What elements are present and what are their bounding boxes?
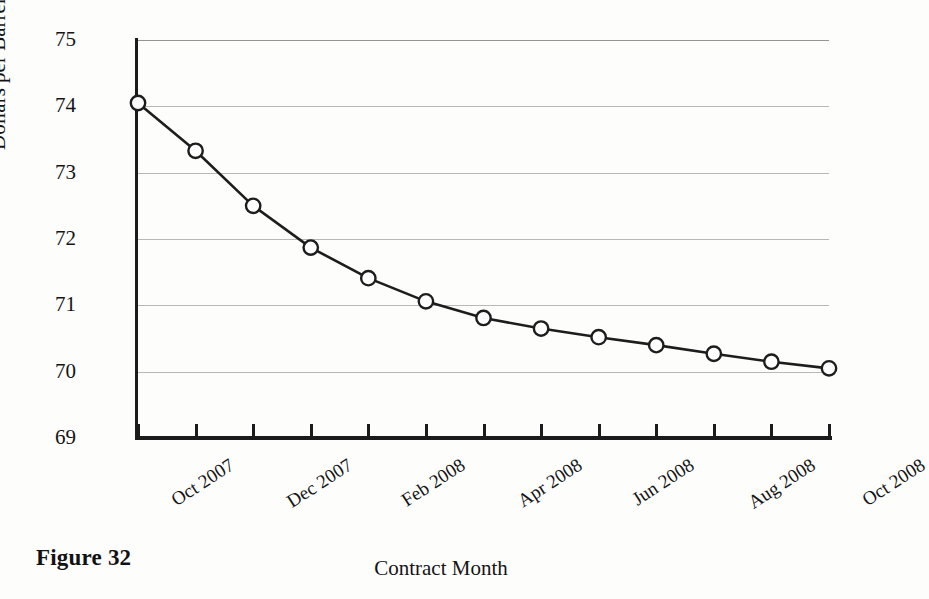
x-tick-label-feb-2008: Feb 2008 <box>398 454 470 511</box>
y-tick-label-70: 70 <box>30 361 76 382</box>
x-tick-label-apr-2008: Apr 2008 <box>513 454 586 512</box>
x-tick-label-oct-2008: Oct 2008 <box>858 454 929 511</box>
plot-area <box>138 40 829 438</box>
data-point-aug-2008 <box>707 347 721 361</box>
data-point-oct-2008 <box>822 361 836 375</box>
y-tick-label-69: 69 <box>30 427 76 448</box>
y-axis-title: Dollars per Barrel <box>0 0 11 150</box>
series-line-futures-price <box>138 103 829 368</box>
data-point-jan-2008 <box>304 240 318 254</box>
x-tick-label-oct-2007: Oct 2007 <box>167 454 238 511</box>
figure-caption: Figure 32 <box>36 545 131 571</box>
y-tick-label-75: 75 <box>30 29 76 50</box>
data-point-oct-2007 <box>131 96 145 110</box>
data-point-nov-2007 <box>188 144 202 158</box>
y-tick-label-73: 73 <box>30 162 76 183</box>
x-axis-title: Contract Month <box>0 556 882 581</box>
data-point-dec-2007 <box>246 199 260 213</box>
data-point-apr-2008 <box>476 311 490 325</box>
data-point-sep-2008 <box>764 355 778 369</box>
x-tick-label-dec-2007: Dec 2007 <box>283 454 356 512</box>
x-tick-label-aug-2008: Aug 2008 <box>744 454 819 514</box>
data-point-mar-2008 <box>419 294 433 308</box>
data-point-feb-2008 <box>361 271 375 285</box>
data-point-jun-2008 <box>591 330 605 344</box>
data-point-may-2008 <box>534 321 548 335</box>
series-layer <box>138 40 829 438</box>
data-point-jul-2008 <box>649 338 663 352</box>
y-tick-label-74: 74 <box>30 95 76 116</box>
y-tick-label-71: 71 <box>30 294 76 315</box>
y-tick-label-72: 72 <box>30 228 76 249</box>
x-tick-label-jun-2008: Jun 2008 <box>628 454 698 510</box>
series-markers <box>131 96 836 376</box>
